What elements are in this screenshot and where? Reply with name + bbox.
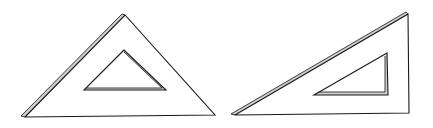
set-square-30-60	[231, 12, 409, 115]
diagram-canvas	[0, 0, 433, 128]
set-square-45	[21, 14, 215, 117]
